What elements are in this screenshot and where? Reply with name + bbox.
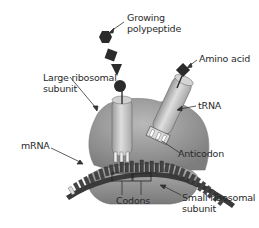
label-large-ribosomal-subunit: Large ribosomal subunit (43, 72, 117, 94)
label-growing-polypeptide-line2: polypeptide (127, 23, 181, 34)
label-anticodon: Anticodon (178, 148, 224, 159)
label-small-ribosomal-subunit: Small ribosomal subunit (182, 192, 255, 214)
label-large-subunit-line1: Large ribosomal (43, 72, 117, 83)
residue-square (105, 49, 118, 62)
label-amino-acid: Amino acid (199, 53, 250, 64)
label-growing-polypeptide-line1: Growing (127, 12, 181, 23)
label-small-subunit-line1: Small ribosomal (182, 192, 255, 203)
label-large-subunit-line2: subunit (43, 83, 117, 94)
label-trna: tRNA (198, 100, 221, 111)
trna-p-site (112, 86, 132, 162)
label-mrna: mRNA (21, 140, 50, 151)
label-growing-polypeptide: Growing polypeptide (127, 12, 181, 34)
label-codons: Codons (116, 195, 150, 206)
label-small-subunit-line2: subunit (182, 203, 255, 214)
